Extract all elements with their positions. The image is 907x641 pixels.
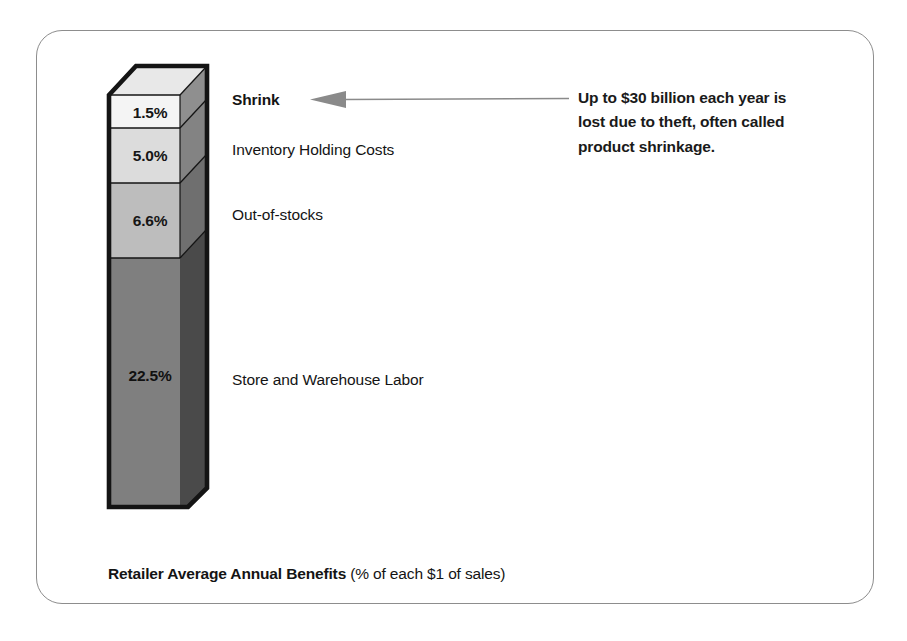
segment-value-store-and-warehouse-labor: 22.5% [116,368,184,384]
caption-subtitle: (% of each $1 of sales) [350,565,505,582]
segment-value-shrink: 1.5% [116,105,184,121]
segment-label-inventory-holding-costs: Inventory Holding Costs [232,142,394,158]
bar-graphic [104,56,216,556]
left-arrow-icon [308,88,570,110]
chart-caption: Retailer Average Annual Benefits (% of e… [108,566,505,582]
annotation-line-1: Up to $30 billion each year is [578,86,836,110]
caption-title: Retailer Average Annual Benefits [108,565,346,582]
segment-label-out-of-stocks: Out-of-stocks [232,207,323,223]
annotation-line-2: lost due to theft, often called [578,110,836,134]
segment-value-out-of-stocks: 6.6% [116,213,184,229]
annotation-callout: Up to $30 billion each year is lost due … [578,86,836,159]
segment-label-shrink: Shrink [232,92,280,108]
annotation-line-3: product shrinkage. [578,135,836,159]
segment-value-inventory-holding-costs: 5.0% [116,148,184,164]
stacked-bar-3d: 1.5% 5.0% 6.6% 22.5% [104,56,216,556]
segment-side-store-and-warehouse-labor [180,229,207,507]
segment-label-store-and-warehouse-labor: Store and Warehouse Labor [232,372,424,388]
chart-figure: 1.5% 5.0% 6.6% 22.5% Shrink Inventory Ho… [0,0,907,641]
